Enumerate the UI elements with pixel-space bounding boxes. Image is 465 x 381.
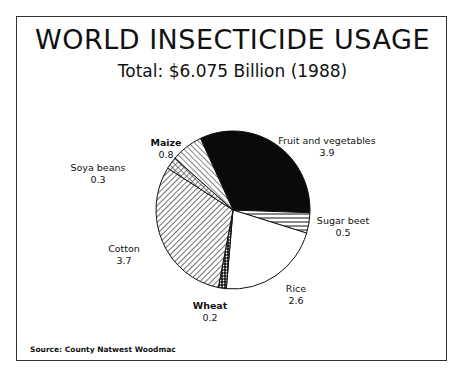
label-value: 0.5 <box>317 227 369 239</box>
label-name: Fruit and vegetables <box>278 135 375 146</box>
label-wheat: Wheat 0.2 <box>193 300 228 324</box>
label-value: 0.2 <box>193 312 228 324</box>
label-name: Sugar beet <box>317 215 369 226</box>
label-sugar-beet: Sugar beet 0.5 <box>317 215 369 239</box>
label-fruit-and-vegetables: Fruit and vegetables 3.9 <box>278 135 375 159</box>
label-value: 3.7 <box>108 255 140 267</box>
source-note: Source: County Natwest Woodmac <box>30 345 176 354</box>
label-name: Maize <box>150 137 181 148</box>
pie-chart <box>0 0 465 381</box>
label-cotton: Cotton 3.7 <box>108 243 140 267</box>
label-soya-beans: Soya beans 0.3 <box>71 162 126 186</box>
label-name: Cotton <box>108 243 140 254</box>
label-name: Rice <box>286 283 306 294</box>
label-value: 0.3 <box>71 174 126 186</box>
label-name: Soya beans <box>71 162 126 173</box>
label-value: 3.9 <box>278 147 375 159</box>
label-maize: Maize 0.8 <box>150 137 181 161</box>
label-name: Wheat <box>193 300 228 311</box>
label-rice: Rice 2.6 <box>286 283 306 307</box>
label-value: 0.8 <box>150 149 181 161</box>
label-value: 2.6 <box>286 295 306 307</box>
